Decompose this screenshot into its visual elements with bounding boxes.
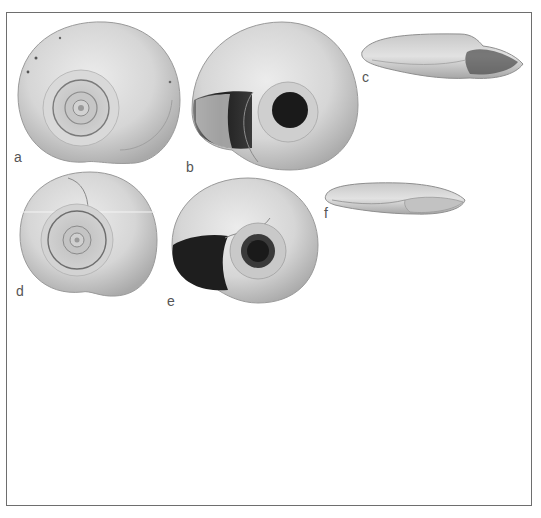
shell-plate — [0, 0, 541, 518]
panel-label-c: c — [362, 70, 369, 84]
shell-d-apical — [20, 172, 157, 296]
panel-label-d: d — [16, 284, 24, 298]
panel-label-f: f — [324, 206, 328, 220]
shell-f-side — [325, 183, 465, 214]
shell-e-umbilical — [172, 178, 318, 303]
panel-label-a: a — [14, 150, 22, 164]
shell-b-umbilical — [192, 22, 358, 170]
panel-label-b: b — [186, 160, 194, 174]
shell-c-side — [362, 34, 523, 79]
panel-label-e: e — [167, 294, 175, 308]
shell-a-apical — [18, 22, 180, 164]
